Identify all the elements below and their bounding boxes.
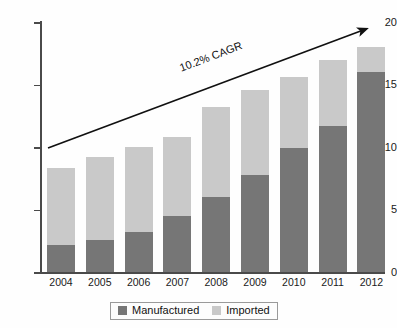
bar-segment-manufactured[interactable] [202, 197, 230, 272]
bar-segment-imported[interactable] [241, 90, 269, 175]
bar-segment-imported[interactable] [319, 60, 347, 126]
bar-group[interactable] [202, 107, 230, 272]
bar-segment-imported[interactable] [125, 147, 153, 232]
bar-segment-imported[interactable] [47, 168, 75, 244]
bar-segment-manufactured[interactable] [86, 240, 114, 273]
chart-legend: Manufactured Imported [110, 302, 278, 320]
bar-segment-imported[interactable] [357, 47, 385, 72]
bar-segment-imported[interactable] [86, 157, 114, 240]
legend-label-manufactured: Manufactured [132, 305, 199, 316]
bar-group[interactable] [319, 60, 347, 273]
bar-segment-manufactured[interactable] [163, 216, 191, 272]
legend-label-imported: Imported [226, 305, 269, 316]
bar-series-layer [0, 0, 397, 328]
bar-group[interactable] [357, 47, 385, 272]
bar-group[interactable] [86, 157, 114, 272]
bar-segment-manufactured[interactable] [125, 232, 153, 272]
bar-segment-manufactured[interactable] [319, 126, 347, 272]
bar-segment-manufactured[interactable] [357, 72, 385, 272]
bar-group[interactable] [47, 168, 75, 272]
bar-segment-manufactured[interactable] [280, 148, 308, 272]
bar-segment-imported[interactable] [202, 107, 230, 197]
bar-segment-manufactured[interactable] [47, 245, 75, 273]
stacked-bar-chart: 20151050 2004200520062007200820092010201… [0, 0, 397, 328]
legend-swatch-imported [212, 306, 221, 315]
bar-segment-manufactured[interactable] [241, 175, 269, 273]
legend-item-imported[interactable]: Imported [212, 305, 269, 316]
legend-swatch-manufactured [118, 306, 127, 315]
bar-group[interactable] [163, 137, 191, 272]
legend-item-manufactured[interactable]: Manufactured [118, 305, 199, 316]
bar-group[interactable] [280, 77, 308, 272]
bar-group[interactable] [241, 90, 269, 273]
bar-segment-imported[interactable] [280, 77, 308, 148]
bar-group[interactable] [125, 147, 153, 272]
bar-segment-imported[interactable] [163, 137, 191, 216]
